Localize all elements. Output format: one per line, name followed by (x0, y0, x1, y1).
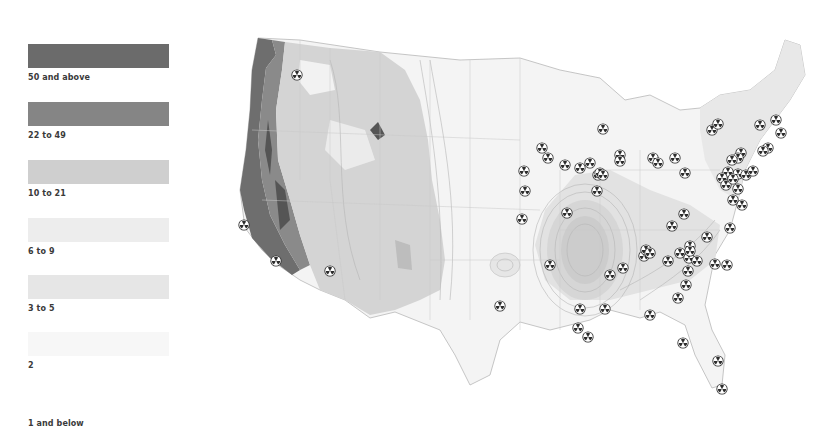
radiation-trefoil-icon (757, 142, 769, 154)
radiation-trefoil-icon (726, 151, 738, 163)
radiation-trefoil-icon (518, 162, 530, 174)
radiation-trefoil-icon (669, 149, 681, 161)
legend-label: 1 and below (28, 419, 170, 428)
radiation-trefoil-icon (270, 252, 282, 264)
legend-label: 3 to 5 (28, 304, 170, 313)
radiation-trefoil-icon (614, 152, 626, 164)
radiation-trefoil-icon (662, 252, 674, 264)
radiation-trefoil-icon (747, 162, 759, 174)
radiation-trefoil-icon (679, 164, 691, 176)
radiation-trefoil-icon (582, 328, 594, 340)
radiation-trefoil-icon (701, 228, 713, 240)
radiation-trefoil-icon (604, 266, 616, 278)
radiation-trefoil-icon (712, 115, 724, 127)
legend-swatch (28, 332, 169, 356)
radiation-trefoil-icon (712, 352, 724, 364)
legend-label: 2 (28, 361, 170, 370)
legend-item-10-to-21: 10 to 21 (28, 160, 170, 198)
radiation-trefoil-icon (291, 66, 303, 78)
radiation-trefoil-icon (716, 380, 728, 392)
radiation-trefoil-icon (544, 256, 556, 268)
radiation-trefoil-icon (727, 170, 739, 182)
radiation-trefoil-icon (599, 300, 611, 312)
legend-swatch (28, 218, 169, 242)
legend-swatch (28, 160, 169, 184)
legend-label: 6 to 9 (28, 247, 170, 256)
legend-label: 10 to 21 (28, 189, 170, 198)
radiation-trefoil-icon (652, 154, 664, 166)
radiation-trefoil-icon (682, 262, 694, 274)
radiation-trefoil-icon (597, 120, 609, 132)
radiation-trefoil-icon (494, 297, 506, 309)
radiation-trefoil-icon (516, 210, 528, 222)
radiation-trefoil-icon (542, 149, 554, 161)
radiation-trefoil-icon (559, 156, 571, 168)
radiation-trefoil-icon (644, 244, 656, 256)
radiation-trefoil-icon (666, 217, 678, 229)
legend-swatch (28, 102, 169, 126)
radiation-trefoil-icon (324, 262, 336, 274)
radiation-trefoil-icon (677, 334, 689, 346)
radiation-trefoil-icon (644, 306, 656, 318)
legend-item-2: 2 (28, 332, 170, 370)
radiation-trefoil-icon (709, 255, 721, 267)
radiation-trefoil-icon (519, 182, 531, 194)
legend-item-50-and-above: 50 and above (28, 44, 170, 82)
radiation-trefoil-icon (724, 219, 736, 231)
radiation-trefoil-icon (721, 256, 733, 268)
radiation-trefoil-icon (574, 300, 586, 312)
legend-label: 50 and above (28, 73, 170, 82)
radiation-trefoil-icon (597, 166, 609, 178)
radiation-trefoil-icon (591, 182, 603, 194)
radiation-trefoil-icon (754, 116, 766, 128)
radiation-trefoil-icon (770, 111, 782, 123)
radiation-trefoil-icon (678, 205, 690, 217)
legend-swatch (28, 44, 169, 68)
radiation-trefoil-icon (238, 216, 250, 228)
radiation-trefoil-icon (617, 259, 629, 271)
radiation-trefoil-icon (672, 289, 684, 301)
legend-item-1-and-below: 1 and below (28, 390, 170, 428)
legend-swatch (28, 390, 169, 414)
radiation-trefoil-icon (561, 204, 573, 216)
legend-item-6-to-9: 6 to 9 (28, 218, 170, 256)
legend-item-22-to-49: 22 to 49 (28, 102, 170, 140)
radiation-trefoil-icon (775, 124, 787, 136)
legend-swatch (28, 275, 169, 299)
legend-label: 22 to 49 (28, 131, 170, 140)
radiation-trefoil-icon (680, 276, 692, 288)
legend-item-3-to-5: 3 to 5 (28, 275, 170, 313)
